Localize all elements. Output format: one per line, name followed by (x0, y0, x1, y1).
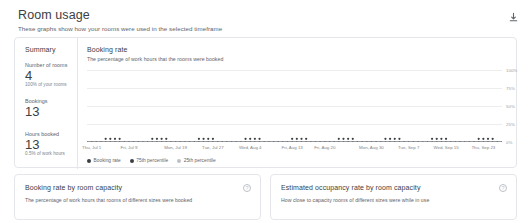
metric-number-of-rooms: Number of rooms 4 100% of your rooms (25, 62, 75, 87)
data-point (212, 141, 214, 142)
legend-item[interactable]: 75th percentile (130, 158, 168, 163)
page-header: Room usage These graphs show how your ro… (18, 8, 222, 32)
cluster-marker (445, 138, 447, 140)
cluster-marker (249, 138, 251, 140)
x-axis-tick-label: Wed, Sep 15 (433, 145, 458, 150)
legend-item[interactable]: Booking rate (87, 158, 121, 163)
data-point (105, 141, 107, 142)
card-subtitle: The percentage of work hours that rooms … (25, 197, 192, 203)
cluster-marker (478, 138, 480, 140)
metric-value: 13 (25, 104, 75, 119)
data-point (501, 141, 502, 142)
data-point (315, 141, 317, 142)
data-point (483, 141, 485, 142)
cluster-marker (198, 138, 200, 140)
data-point (180, 141, 182, 142)
data-point (319, 141, 321, 142)
legend-item[interactable]: 25th percentile (177, 158, 215, 163)
data-point (366, 141, 368, 142)
data-point (203, 141, 205, 142)
download-icon[interactable] (505, 9, 521, 25)
data-point (422, 141, 424, 142)
booking-rate-card: Summary Number of rooms 4 100% of your r… (14, 37, 517, 168)
metric-hours-booked: Hours booked 13 0.5% of work hours (25, 131, 75, 156)
data-point (343, 141, 345, 142)
cluster-marker (394, 138, 396, 140)
data-point (347, 141, 349, 142)
cluster-marker (482, 138, 484, 140)
data-point (147, 141, 149, 142)
x-axis-tick-label: Fri, Aug 13 (282, 145, 303, 150)
cluster-marker (119, 138, 121, 140)
x-axis-tick-label: Tue, Jul 27 (202, 145, 224, 150)
x-axis-tick-label: Fri, Aug 20 (314, 145, 335, 150)
data-point (282, 141, 284, 142)
data-point (114, 141, 116, 142)
data-point (464, 141, 466, 142)
data-point (245, 141, 247, 142)
data-point (287, 141, 289, 142)
data-point (357, 141, 359, 142)
help-icon[interactable]: ? (243, 184, 251, 192)
card-title: Booking rate by room capacity (25, 184, 122, 191)
legend-color-dot (177, 159, 181, 163)
card-divider (77, 38, 78, 169)
data-point (194, 141, 196, 142)
data-point (305, 141, 307, 142)
data-point (263, 141, 265, 142)
x-axis-tick-label: Wed, Aug 4 (239, 145, 262, 150)
cluster-marker (487, 138, 489, 140)
data-point (497, 141, 499, 142)
data-point (333, 141, 335, 142)
metric-note: 0.5% of work hours (25, 151, 75, 156)
data-point (273, 141, 275, 142)
data-point (478, 141, 480, 142)
data-point (455, 141, 457, 142)
data-point (436, 141, 438, 142)
cluster-marker (105, 138, 107, 140)
metric-value: 4 (25, 68, 75, 83)
data-point (189, 141, 191, 142)
summary-panel: Summary Number of rooms 4 100% of your r… (25, 46, 75, 156)
x-axis-labels: Thu, Jul 1Fri, Jul 9Mon, Jul 19Tue, Jul … (87, 145, 507, 155)
x-axis-tick-label: Mon, Aug 30 (359, 145, 384, 150)
data-point (361, 141, 363, 142)
data-point (324, 141, 326, 142)
data-point (371, 141, 373, 142)
line-chart-plot: 100%75%50%25%0% (87, 70, 502, 142)
x-axis-tick-label: Thu, Sep 23 (471, 145, 495, 150)
data-point (399, 141, 401, 142)
cluster-marker (305, 138, 307, 140)
data-point (161, 141, 163, 142)
cluster-marker (244, 138, 246, 140)
data-point (170, 141, 172, 142)
cluster-marker (342, 138, 344, 140)
chart-legend: Booking rate75th percentile25th percenti… (87, 158, 216, 163)
legend-label: Booking rate (94, 158, 121, 163)
data-point (375, 141, 377, 142)
cluster-marker (156, 138, 158, 140)
cluster-marker (431, 138, 433, 140)
data-point (431, 141, 433, 142)
occupancy-rate-by-capacity-card: Estimated occupancy rate by room capacit… (270, 174, 517, 220)
x-axis-tick-label: Fri, Jul 9 (121, 145, 138, 150)
data-point (87, 141, 88, 142)
metric-bookings: Bookings 13 (25, 98, 75, 119)
y-axis-tick-label: 100% (506, 68, 517, 73)
data-point (385, 141, 387, 142)
y-axis-tick-label: 50% (506, 104, 515, 109)
chart-subtitle: The percentage of work hours that the ro… (87, 56, 510, 62)
x-axis-tick-label: Thu, Jul 1 (82, 145, 101, 150)
data-point (268, 141, 270, 142)
cluster-marker (161, 138, 163, 140)
data-point (259, 141, 261, 142)
data-point (217, 141, 219, 142)
data-point (198, 141, 200, 142)
data-point (156, 141, 158, 142)
cluster-marker (347, 138, 349, 140)
data-point (441, 141, 443, 142)
card-subtitle: How close to capacity rooms of different… (281, 197, 429, 203)
cluster-marker (398, 138, 400, 140)
data-point (96, 141, 98, 142)
help-icon[interactable]: ? (499, 184, 507, 192)
